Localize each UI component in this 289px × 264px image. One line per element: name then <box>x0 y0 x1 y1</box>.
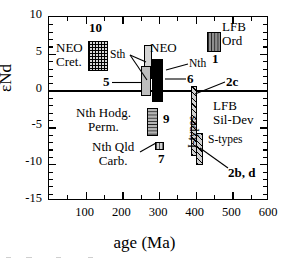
y-major-tick-right <box>260 127 267 128</box>
y-tick-label-5: 5 <box>8 44 42 59</box>
y-minor-tick <box>49 172 53 173</box>
x-minor-tick <box>177 195 178 199</box>
x-minor-tick-top <box>104 17 105 21</box>
y-minor-tick-right <box>263 61 267 62</box>
number-label-6: 6 <box>187 72 194 86</box>
y-major-tick-right <box>260 54 267 55</box>
y-tick-label-minus15: -15 <box>8 191 42 206</box>
label-nth-hodg-perm: Nth Hodg. Perm. <box>76 106 131 134</box>
y-tick-label-minus10: -10 <box>8 154 42 169</box>
y-minor-tick <box>49 113 53 114</box>
y-tick-label-10: 10 <box>8 7 42 22</box>
x-minor-tick <box>67 195 68 199</box>
y-minor-tick-right <box>263 32 267 33</box>
label-nth-qld-carb: Nth Qld Carb. <box>92 140 134 168</box>
data-box-neo-sth-lower <box>141 66 151 96</box>
y-minor-tick <box>49 135 53 136</box>
y-minor-tick-right <box>263 120 267 121</box>
y-minor-tick-right <box>263 172 267 173</box>
x-minor-tick <box>214 195 215 199</box>
y-minor-tick-right <box>263 24 267 25</box>
y-minor-tick-right <box>263 194 267 195</box>
x-major-tick-top <box>122 17 123 24</box>
y-minor-tick <box>49 157 53 158</box>
x-major-tick-top <box>159 17 160 24</box>
y-minor-tick <box>49 83 53 84</box>
y-minor-tick-right <box>263 113 267 114</box>
x-major-tick <box>86 192 87 199</box>
y-minor-tick-right <box>263 135 267 136</box>
number-label-9: 9 <box>163 112 170 126</box>
number-label-1: 1 <box>212 52 219 66</box>
y-minor-tick <box>49 32 53 33</box>
y-minor-tick <box>49 98 53 99</box>
label-s-types: S-types <box>208 133 243 145</box>
number-label-2bd: 2b, d <box>228 166 255 180</box>
y-minor-tick <box>49 149 53 150</box>
y-minor-tick-right <box>263 39 267 40</box>
y-minor-tick <box>49 142 53 143</box>
data-box-nth-hodg-perm <box>147 108 157 136</box>
x-major-tick <box>232 192 233 199</box>
y-minor-tick-right <box>263 186 267 187</box>
scan-artifact <box>56 257 61 258</box>
x-minor-tick-top <box>177 17 178 21</box>
x-minor-tick-top <box>214 17 215 21</box>
x-axis-title: age (Ma) <box>0 233 289 253</box>
legend-label-lfb-ord: LFB Ord <box>222 20 246 48</box>
label-sth: Sth <box>110 48 125 60</box>
label-neo: NEO <box>150 41 177 55</box>
x-minor-tick <box>251 195 252 199</box>
x-major-tick <box>159 192 160 199</box>
label-neo-cret: NEO Cret. <box>56 41 83 69</box>
data-box-neo-nth <box>152 59 163 102</box>
x-minor-tick <box>141 195 142 199</box>
x-major-tick <box>196 192 197 199</box>
label-nth: Nth <box>189 57 206 69</box>
y-tick-label-minus5: -5 <box>8 117 42 132</box>
y-major-tick <box>49 91 56 92</box>
y-minor-tick-right <box>263 142 267 143</box>
y-minor-tick <box>49 24 53 25</box>
number-label-10: 10 <box>89 21 102 35</box>
y-minor-tick-right <box>263 179 267 180</box>
y-minor-tick-right <box>263 76 267 77</box>
number-label-5: 5 <box>103 75 110 89</box>
label-i-types: I-types <box>186 116 198 148</box>
y-minor-tick <box>49 46 53 47</box>
x-major-tick-top <box>196 17 197 24</box>
x-minor-tick <box>104 195 105 199</box>
y-minor-tick-right <box>263 105 267 106</box>
x-tick-label-600: 600 <box>245 205 289 220</box>
number-label-2c: 2c <box>226 75 238 89</box>
y-major-tick-right <box>260 91 267 92</box>
number-label-7: 7 <box>158 152 165 166</box>
y-minor-tick <box>49 120 53 121</box>
y-major-tick <box>49 54 56 55</box>
y-minor-tick-right <box>263 98 267 99</box>
y-minor-tick <box>49 186 53 187</box>
y-minor-tick <box>49 39 53 40</box>
y-minor-tick <box>49 61 53 62</box>
y-minor-tick <box>49 76 53 77</box>
y-minor-tick-right <box>263 46 267 47</box>
data-box-nth-qld-carb <box>155 142 163 150</box>
scan-artifact <box>26 257 32 258</box>
y-minor-tick-right <box>263 69 267 70</box>
x-major-tick <box>122 192 123 199</box>
y-major-tick <box>49 164 56 165</box>
scan-artifact <box>88 257 93 258</box>
y-minor-tick-right <box>263 157 267 158</box>
y-minor-tick-right <box>263 149 267 150</box>
y-major-tick-right <box>260 164 267 165</box>
legend-swatch-lfb-ord <box>207 32 220 52</box>
figure-epsilon-nd-vs-age: εNd 10 5 0 -5 -10 -15 100 200 300 400 50… <box>0 0 289 264</box>
y-minor-tick <box>49 69 53 70</box>
label-lfb-sil-dev: LFB Sil-Dev <box>213 99 253 127</box>
y-minor-tick <box>49 194 53 195</box>
x-major-tick-top <box>86 17 87 24</box>
y-tick-label-0: 0 <box>8 81 42 96</box>
x-minor-tick-top <box>141 17 142 21</box>
data-box-neo-cret <box>88 41 108 72</box>
y-minor-tick <box>49 179 53 180</box>
